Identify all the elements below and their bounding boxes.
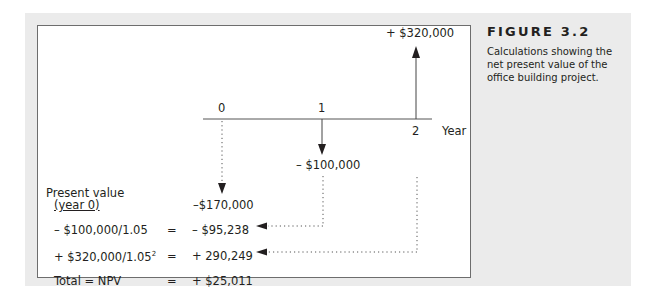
arrow-up-icon xyxy=(412,46,420,58)
arrow-down-icon xyxy=(218,183,226,194)
row-value: + 290,249 xyxy=(192,251,253,263)
row-equals: = xyxy=(167,276,177,288)
tick-label-year-0: 0 xyxy=(218,103,225,115)
arrow-left-icon xyxy=(256,249,267,256)
row-formula: Total = NPV xyxy=(54,276,121,288)
row-formula: – $100,000/1.05 xyxy=(54,225,148,237)
tick-label-year-1: 1 xyxy=(318,103,325,115)
figure-title: FIGURE 3.2 xyxy=(487,24,590,39)
row-formula: + $320,000/1.052 xyxy=(54,251,156,263)
arrow-down-icon xyxy=(318,144,326,155)
cash-flow-year-1: – $100,000 xyxy=(296,160,360,172)
axis-label-year: Year xyxy=(442,126,466,138)
arrow-left-icon xyxy=(256,223,267,230)
figure-caption: Calculations showing the net present val… xyxy=(487,45,627,84)
row-value: + $25,011 xyxy=(192,276,253,288)
row-equals: = xyxy=(167,251,177,263)
row-equals: = xyxy=(167,225,177,237)
table-header-sub: (year 0) xyxy=(54,200,100,212)
cash-flow-year-2: + $320,000 xyxy=(386,28,454,40)
tick-label-year-2: 2 xyxy=(412,126,419,138)
cash-flow-year-0: –$170,000 xyxy=(193,200,254,212)
row-value: – $95,238 xyxy=(192,225,249,237)
